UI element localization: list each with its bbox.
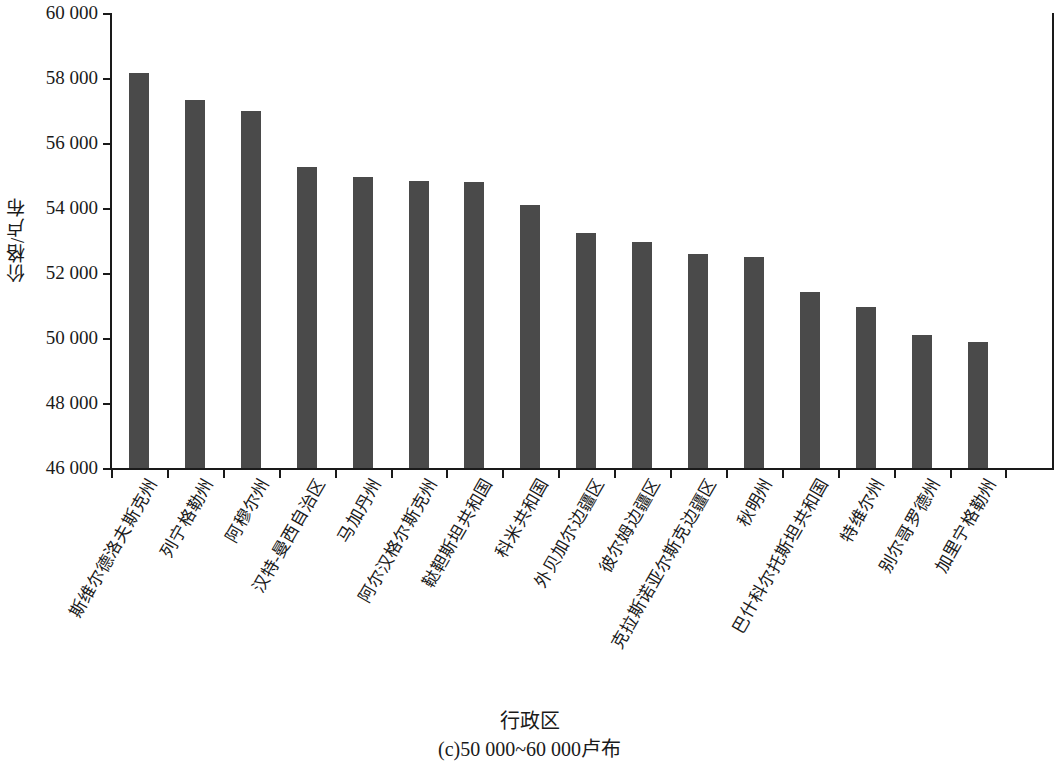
bar: [912, 335, 932, 468]
x-axis-tick: [111, 468, 113, 478]
y-axis-tick-label: 56 000: [12, 133, 98, 152]
y-axis-tick-label: 54 000: [12, 198, 98, 217]
x-axis-label: 行政区: [0, 705, 1059, 734]
bar: [129, 73, 149, 468]
x-axis-category-label-text: 斯维尔德洛夫斯克州: [67, 476, 160, 621]
y-axis-tick: [103, 208, 112, 210]
y-axis-label: 价格/卢布: [2, 150, 32, 330]
bar-chart-figure: 价格/卢布 60 00058 00056 00054 00052 00050 0…: [0, 0, 1059, 770]
y-axis-tick-label: 60 000: [12, 3, 98, 22]
y-axis-tick: [103, 78, 112, 80]
x-axis-category-label-text: 别尔哥罗德州: [876, 476, 943, 575]
x-axis-category-label-text: 科米共和国: [494, 476, 552, 560]
y-axis-tick-label: 58 000: [12, 68, 98, 87]
x-axis-category-label-text: 马加丹州: [335, 476, 385, 545]
x-axis-category-label-text: 秋明州: [735, 476, 776, 530]
y-axis-tick: [103, 13, 112, 15]
x-axis-category-label-text: 克拉斯诺亚尔斯克边疆区: [609, 476, 720, 651]
x-axis-category-label-text: 加里宁格勒州: [932, 476, 999, 575]
y-axis-tick: [103, 143, 112, 145]
y-axis-tick: [103, 338, 112, 340]
x-axis-category-label-text: 阿穆尔州: [223, 476, 273, 545]
y-axis-tick-label: 48 000: [12, 393, 98, 412]
y-axis-tick-label: 52 000: [12, 263, 98, 282]
x-axis-category-label-text: 特维尔州: [838, 476, 888, 545]
y-axis-tick-label: 50 000: [12, 328, 98, 347]
figure-caption: (c)50 000~60 000卢布: [0, 733, 1059, 762]
y-axis-tick-label: 46 000: [12, 458, 98, 477]
y-axis-tick: [103, 273, 112, 275]
x-axis-category-label-text: 列宁格勒州: [158, 476, 216, 560]
bar-series: [112, 13, 1052, 468]
y-axis-tick: [103, 403, 112, 405]
